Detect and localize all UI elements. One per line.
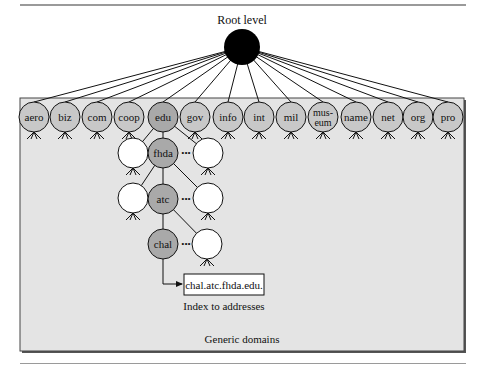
generic-domains-region [20,98,464,351]
dns-tree-diagram: Root level aerobizcomcoopedugovinfointmi… [0,0,485,371]
fhda-label: fhda [153,147,173,159]
blank-node [118,138,148,168]
blank-node [193,138,223,168]
tld-label: pro [441,111,456,123]
tld-label: net [381,111,394,123]
tld-label: int [253,111,265,123]
blank-node [118,183,148,213]
ellipsis: ••• [181,239,190,249]
path-nodes: fhda atc chal [148,138,178,259]
ellipsis: ••• [181,194,190,204]
tld-label: org [411,111,426,123]
tld-label: coop [118,111,140,123]
ellipsis: ••• [181,148,190,158]
chal-label: chal [154,238,172,250]
tld-label: com [88,111,107,123]
tld-label: mil [284,111,299,123]
generic-domains-label: Generic domains [205,333,280,345]
tld-label: name [344,111,368,123]
tld-label: biz [58,111,72,123]
root-level-label: Root level [217,13,267,27]
tld-label: aero [25,111,44,123]
tld-label: gov [187,111,204,123]
index-to-addresses-label: Index to addresses [183,300,264,312]
atc-label: atc [157,193,170,205]
tld-label: edu [155,111,171,123]
blank-node [193,183,223,213]
blank-node [192,229,222,259]
root-node [224,29,260,65]
tld-label: info [219,111,237,123]
address-box-text: chal.atc.fhda.edu. [185,279,263,291]
tld-label: eum [314,117,331,128]
